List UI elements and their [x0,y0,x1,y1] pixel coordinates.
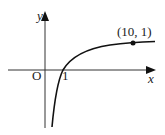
graph-svg: y x O 1 (10, 1) [0,0,165,135]
origin-label: O [32,68,41,83]
point-marker [131,41,136,46]
log-curve [52,42,155,128]
x-axis-label: x [147,71,154,86]
y-axis-label: y [35,8,43,23]
point-label: (10, 1) [117,24,152,39]
tick-label-one: 1 [62,68,69,83]
graph-figure: y x O 1 (10, 1) [0,0,165,135]
